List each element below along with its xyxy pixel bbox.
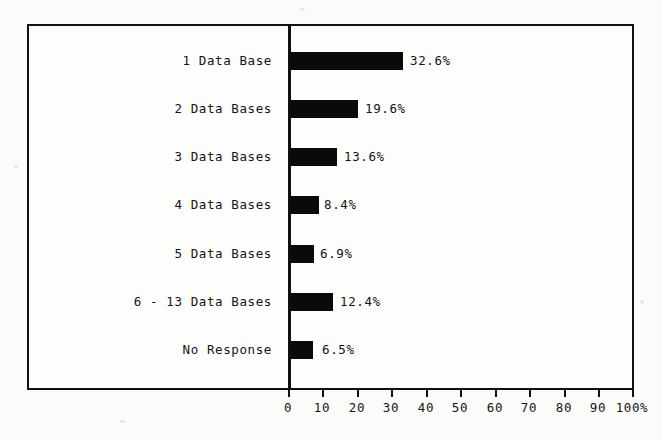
- x-axis-tick-label: 10: [302, 400, 342, 416]
- category-label: 2 Data Bases: [0, 99, 272, 119]
- bar-row: No Response 6.5%: [0, 340, 662, 360]
- bar-value-label: 19.6%: [365, 99, 406, 119]
- x-axis-tick-label: 70: [509, 400, 549, 416]
- x-axis-tick: [322, 390, 324, 397]
- x-axis-tick: [288, 390, 290, 397]
- bar: [290, 245, 314, 263]
- bar: [290, 100, 358, 118]
- chart-page: 1 Data Base 32.6% 2 Data Bases 19.6% 3 D…: [0, 0, 662, 439]
- x-axis-tick: [564, 390, 566, 397]
- category-label: 4 Data Bases: [0, 195, 272, 215]
- x-axis-tick: [357, 390, 359, 397]
- bar-row: 5 Data Bases 6.9%: [0, 244, 662, 264]
- x-axis-tick-label: 100%: [608, 400, 656, 416]
- bar-row: 6 - 13 Data Bases 12.4%: [0, 292, 662, 312]
- bar-row: 3 Data Bases 13.6%: [0, 147, 662, 167]
- bar-value-label: 13.6%: [344, 147, 385, 167]
- category-label: No Response: [0, 340, 272, 360]
- x-axis-tick: [529, 390, 531, 397]
- category-label: 5 Data Bases: [0, 244, 272, 264]
- x-axis-tick-label: 50: [440, 400, 480, 416]
- x-axis-tick-label: 30: [371, 400, 411, 416]
- x-axis-tick: [460, 390, 462, 397]
- bar-value-label: 12.4%: [340, 292, 381, 312]
- bar-row: 1 Data Base 32.6%: [0, 51, 662, 71]
- category-label: 1 Data Base: [0, 51, 272, 71]
- bar-row: 2 Data Bases 19.6%: [0, 99, 662, 119]
- bar-row: 4 Data Bases 8.4%: [0, 195, 662, 215]
- bar: [290, 52, 403, 70]
- bar-value-label: 6.9%: [320, 244, 353, 264]
- bar: [290, 196, 319, 214]
- bar: [290, 148, 337, 166]
- x-axis-tick: [598, 390, 600, 397]
- x-axis-tick: [426, 390, 428, 397]
- bar: [290, 293, 333, 311]
- x-axis-tick: [391, 390, 393, 397]
- category-label: 3 Data Bases: [0, 147, 272, 167]
- bar-value-label: 32.6%: [410, 51, 451, 71]
- bar-value-label: 6.5%: [322, 340, 355, 360]
- x-axis-tick: [495, 390, 497, 397]
- category-label: 6 - 13 Data Bases: [0, 292, 272, 312]
- bar: [290, 341, 313, 359]
- x-axis-tick: [632, 390, 634, 397]
- bar-value-label: 8.4%: [324, 195, 357, 215]
- scan-speckle: [300, 8, 305, 11]
- scan-speckle: [120, 420, 125, 423]
